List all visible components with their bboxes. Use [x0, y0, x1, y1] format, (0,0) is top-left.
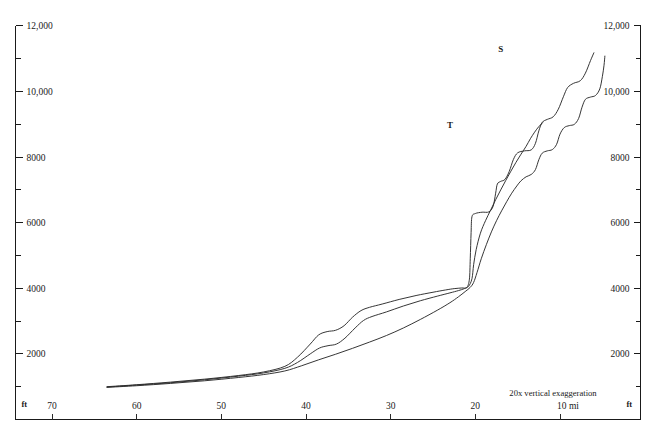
y-tick-label-left: 8000 [27, 153, 46, 163]
axis-labels-group: 12,00010,000800060004000200012,00010,000… [22, 21, 633, 410]
vertical-exaggeration-note: 20x vertical exaggeration [509, 388, 597, 398]
y-tick-label-right: 12,000 [603, 21, 629, 31]
curve-label-s: S [498, 44, 503, 54]
x-tick-label: 70 [47, 401, 57, 411]
x-tick-label: 30 [386, 401, 396, 411]
profile-curve-s [107, 53, 594, 387]
profile-curve-t [107, 122, 543, 387]
profile-curve-u [107, 56, 605, 387]
y-tick-label-left: 2000 [27, 349, 46, 359]
axes-group [16, 26, 641, 420]
y-tick-label-right: 2000 [611, 349, 630, 359]
y-tick-label-left: 4000 [27, 284, 46, 294]
x-tick-label: 40 [301, 401, 311, 411]
x-tick-label: 20 [471, 401, 481, 411]
profile-plot-svg: 12,00010,000800060004000200012,00010,000… [0, 0, 654, 435]
elevation-profile-chart: 12,00010,000800060004000200012,00010,000… [0, 0, 654, 435]
x-tick-label: 10 mi [557, 401, 579, 411]
y-tick-label-right: 10,000 [603, 87, 629, 97]
y-tick-label-left: 6000 [27, 218, 46, 228]
curves-group [107, 53, 605, 388]
ticks-group [16, 26, 641, 420]
y-tick-label-right: 4000 [611, 284, 630, 294]
y-tick-label-left: 12,000 [27, 21, 53, 31]
curve-label-t: T [447, 120, 453, 130]
y-tick-label-right: 6000 [611, 218, 630, 228]
y-tick-label-left: 10,000 [27, 87, 53, 97]
x-tick-label: 50 [217, 401, 227, 411]
y-tick-label-right: 8000 [611, 153, 630, 163]
ft-unit-label-left: ft [22, 399, 28, 409]
ft-unit-label-right: ft [627, 399, 633, 409]
x-tick-label: 60 [132, 401, 142, 411]
